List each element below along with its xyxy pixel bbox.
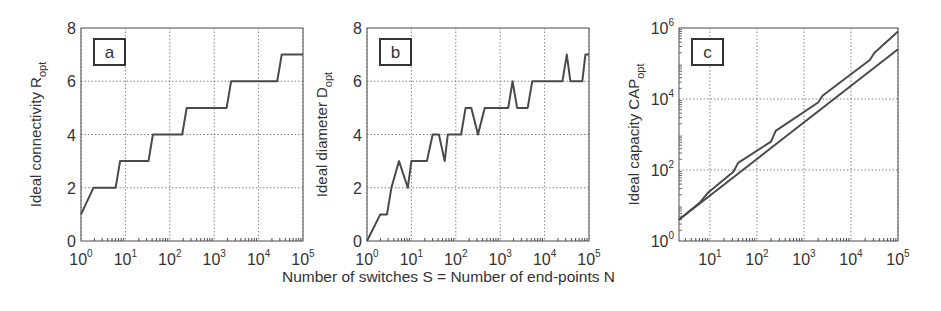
svg-text:a: a [105,43,115,62]
panel-b: 10010110210310410502468bIdeal diameter D… [313,20,601,268]
tick-label: 102 [745,248,769,268]
tick-label: 101 [114,248,138,268]
y-axis-label: Ideal connectivity Ropt [27,62,48,207]
panel-label-c: c [692,39,723,65]
tick-label: 0 [353,233,362,250]
tick-label: 105 [577,248,601,268]
tick-label: 4 [67,127,76,144]
svg-text:b: b [391,43,400,62]
tick-label: 104 [247,248,271,268]
tick-label: 104 [533,248,557,268]
panel-c: 101102103104105100102104106cIdeal capaci… [625,17,910,268]
y-axis-label: Ideal diameter Dopt [313,72,334,197]
tick-label: 105 [886,248,910,268]
y-axis-label: Ideal capacity CAPopt [625,63,646,205]
tick-label: 2 [353,180,362,197]
tick-label: 4 [353,127,362,144]
tick-label: 101 [698,248,722,268]
shared-xlabel: Number of switches S = Number of end-poi… [282,268,615,286]
tick-label: 104 [839,248,863,268]
tick-label: 100 [651,230,675,250]
tick-label: 103 [489,248,513,268]
figure: 10010110210310410502468aIdeal connectivi… [0,0,941,311]
tick-label: 106 [651,17,675,37]
tick-label: 0 [67,233,76,250]
panel-label-b: b [380,39,411,65]
tick-label: 102 [444,248,468,268]
chart-canvas: 10010110210310410502468aIdeal connectivi… [0,0,941,311]
tick-label: 103 [203,248,227,268]
tick-label: 100 [355,248,379,268]
panel-a: 10010110210310410502468aIdeal connectivi… [27,20,315,268]
panel-label-a: a [94,39,125,65]
tick-label: 102 [158,248,182,268]
tick-label: 6 [353,73,362,90]
tick-label: 102 [651,159,675,179]
tick-label: 2 [67,180,76,197]
tick-label: 8 [67,20,76,37]
tick-label: 104 [651,88,675,108]
tick-label: 6 [67,73,76,90]
tick-label: 103 [792,248,816,268]
svg-text:c: c [703,43,712,62]
tick-label: 101 [400,248,424,268]
tick-label: 105 [291,248,315,268]
tick-label: 8 [353,20,362,37]
tick-label: 100 [69,248,93,268]
